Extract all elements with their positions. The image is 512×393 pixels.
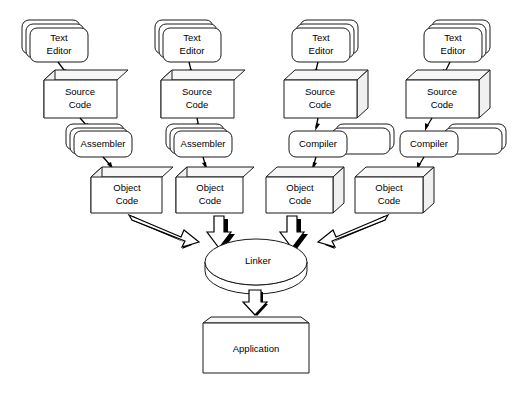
linker-node[interactable]: Linker bbox=[205, 239, 307, 294]
application-node[interactable]: Application bbox=[203, 317, 309, 373]
source-code-3-label-1: Source bbox=[305, 86, 335, 97]
compiler-3[interactable]: Compiler bbox=[289, 124, 394, 157]
object-code-4-label-1: Object bbox=[375, 182, 403, 193]
source-code-4[interactable]: Source Code bbox=[406, 70, 490, 118]
object-code-1-label-1: Object bbox=[113, 182, 141, 193]
source-code-4-label-1: Source bbox=[427, 86, 457, 97]
source-code-2[interactable]: Source Code bbox=[161, 70, 245, 118]
source-code-3[interactable]: Source Code bbox=[284, 70, 368, 118]
assembler-1-label: Assembler bbox=[81, 138, 126, 149]
object-code-4-label-2: Code bbox=[378, 195, 401, 206]
text-editor-2[interactable]: Text Editor bbox=[155, 20, 221, 62]
text-editor-1[interactable]: Text Editor bbox=[22, 20, 88, 62]
text-editor-1-label-1: Text bbox=[50, 32, 68, 43]
block-arrow-oc4-to-linker bbox=[318, 215, 388, 249]
column-4: Text Editor Source Code bbox=[355, 20, 506, 213]
source-code-4-label-2: Code bbox=[431, 99, 454, 110]
text-editor-2-label-2: Editor bbox=[180, 45, 205, 56]
object-code-2-label-1: Object bbox=[196, 182, 224, 193]
text-editor-4[interactable]: Text Editor bbox=[424, 20, 490, 62]
object-code-2-label-2: Code bbox=[199, 195, 222, 206]
object-code-3-label-2: Code bbox=[289, 195, 312, 206]
diagram-canvas: Text Editor Source Code bbox=[0, 0, 512, 393]
connector-sc4-as4 bbox=[425, 118, 432, 131]
text-editor-3[interactable]: Text Editor bbox=[292, 20, 358, 62]
object-code-1[interactable]: Object Code bbox=[91, 167, 173, 213]
connector-sc3-as3 bbox=[315, 118, 320, 131]
compiler-3-label: Compiler bbox=[299, 138, 337, 149]
source-code-1[interactable]: Source Code bbox=[44, 70, 128, 118]
source-code-2-label-2: Code bbox=[186, 99, 209, 110]
text-editor-2-label-1: Text bbox=[183, 32, 201, 43]
source-code-1-label-1: Source bbox=[65, 86, 95, 97]
assembler-2-label: Assembler bbox=[181, 138, 226, 149]
object-code-4[interactable]: Object Code bbox=[355, 167, 434, 213]
object-code-3-label-1: Object bbox=[286, 182, 314, 193]
object-code-1-label-2: Code bbox=[116, 195, 139, 206]
text-editor-4-label-2: Editor bbox=[441, 45, 466, 56]
object-code-2[interactable]: Object Code bbox=[176, 167, 254, 213]
linker-label: Linker bbox=[245, 255, 271, 266]
assembler-1[interactable]: Assembler bbox=[66, 124, 132, 157]
toolchain-diagram: Text Editor Source Code bbox=[0, 0, 512, 393]
column-1: Text Editor Source Code bbox=[22, 20, 173, 213]
text-editor-3-label-1: Text bbox=[312, 32, 330, 43]
application-label: Application bbox=[233, 343, 279, 354]
source-code-1-label-2: Code bbox=[69, 99, 92, 110]
block-arrow-oc1-to-linker bbox=[129, 215, 199, 249]
text-editor-1-label-2: Editor bbox=[47, 45, 72, 56]
source-code-3-label-2: Code bbox=[309, 99, 332, 110]
compiler-4[interactable]: Compiler bbox=[400, 124, 506, 157]
column-2: Text Editor Source Code bbox=[155, 20, 254, 213]
object-code-3[interactable]: Object Code bbox=[266, 167, 344, 213]
compiler-4-label: Compiler bbox=[410, 138, 448, 149]
assembler-2[interactable]: Assembler bbox=[166, 124, 232, 157]
text-editor-3-label-2: Editor bbox=[309, 45, 334, 56]
source-code-2-label-1: Source bbox=[182, 86, 212, 97]
text-editor-4-label-1: Text bbox=[444, 32, 462, 43]
